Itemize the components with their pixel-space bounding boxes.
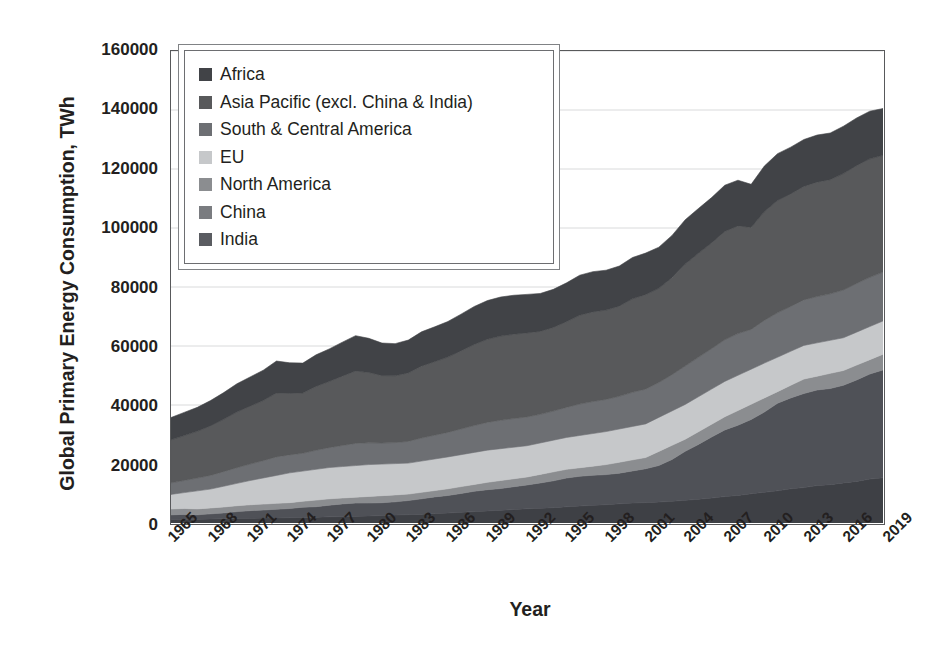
legend-item[interactable]: South & Central America — [199, 116, 543, 144]
y-tick-label: 20000 — [18, 457, 158, 474]
y-axis-tick-labels: 0200004000060000800001000001200001400001… — [18, 0, 158, 646]
legend-swatch-icon — [199, 96, 212, 109]
legend-item[interactable]: India — [199, 226, 543, 254]
legend-swatch-icon — [199, 151, 212, 164]
legend-item-label: Asia Pacific (excl. China & India) — [220, 92, 473, 113]
legend: AfricaAsia Pacific (excl. China & India)… — [178, 44, 560, 270]
legend-item-label: South & Central America — [220, 119, 412, 140]
y-tick-label: 0 — [18, 516, 158, 533]
y-tick-label: 120000 — [18, 160, 158, 177]
y-tick-label: 80000 — [18, 279, 158, 296]
legend-item-label: North America — [220, 174, 331, 195]
y-tick-label: 60000 — [18, 338, 158, 355]
legend-item-label: EU — [220, 147, 244, 168]
x-axis-title: Year — [170, 598, 890, 621]
y-tick-label: 140000 — [18, 100, 158, 117]
legend-swatch-icon — [199, 233, 212, 246]
legend-swatch-icon — [199, 178, 212, 191]
legend-item[interactable]: North America — [199, 171, 543, 199]
y-tick-label: 40000 — [18, 397, 158, 414]
legend-swatch-icon — [199, 206, 212, 219]
legend-items-container: AfricaAsia Pacific (excl. China & India)… — [184, 50, 554, 264]
legend-item[interactable]: China — [199, 199, 543, 227]
legend-item[interactable]: Asia Pacific (excl. China & India) — [199, 89, 543, 117]
chart-figure: Global Primary Energy Consumption, TWh 0… — [0, 0, 941, 646]
legend-swatch-icon — [199, 68, 212, 81]
legend-item-label: Africa — [220, 64, 265, 85]
legend-item[interactable]: EU — [199, 144, 543, 172]
y-tick-label: 160000 — [18, 41, 158, 58]
legend-item[interactable]: Africa — [199, 61, 543, 89]
y-tick-label: 100000 — [18, 219, 158, 236]
legend-item-label: China — [220, 202, 266, 223]
legend-item-label: India — [220, 229, 258, 250]
legend-swatch-icon — [199, 123, 212, 136]
